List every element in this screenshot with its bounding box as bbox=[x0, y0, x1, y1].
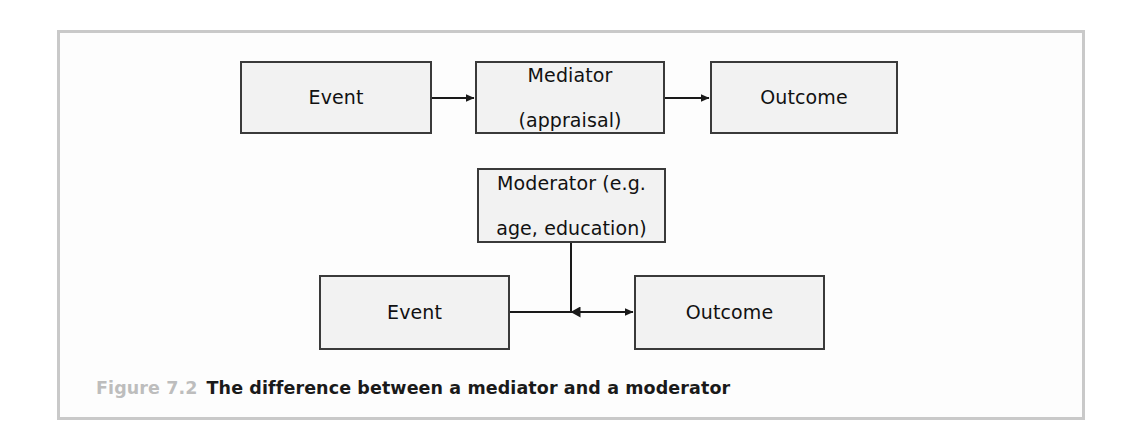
node-outcome-top: Outcome bbox=[710, 61, 898, 134]
node-label: Outcome bbox=[680, 301, 779, 323]
node-label-line1: Moderator (e.g. bbox=[490, 172, 653, 194]
node-event-bottom: Event bbox=[319, 275, 510, 350]
figure-caption-text: The difference between a mediator and a … bbox=[207, 378, 731, 398]
figure-caption: Figure 7.2The difference between a media… bbox=[96, 378, 730, 398]
node-label-line2: age, education) bbox=[490, 217, 653, 239]
node-label: Event bbox=[381, 301, 448, 323]
node-event-top: Event bbox=[240, 61, 432, 134]
node-moderator: Moderator (e.g. age, education) bbox=[477, 168, 666, 243]
node-label-line2: (appraisal) bbox=[512, 109, 627, 131]
node-label: Moderator (e.g. age, education) bbox=[484, 172, 659, 239]
node-label: Outcome bbox=[754, 86, 853, 108]
diagram-canvas: Event Mediator (appraisal) Outcome Moder… bbox=[0, 0, 1137, 447]
node-outcome-bottom: Outcome bbox=[634, 275, 825, 350]
node-label-line1: Mediator bbox=[512, 64, 627, 86]
node-label: Event bbox=[303, 86, 370, 108]
node-mediator: Mediator (appraisal) bbox=[475, 61, 665, 134]
node-label: Mediator (appraisal) bbox=[506, 64, 633, 131]
figure-caption-label: Figure 7.2 bbox=[96, 378, 198, 398]
